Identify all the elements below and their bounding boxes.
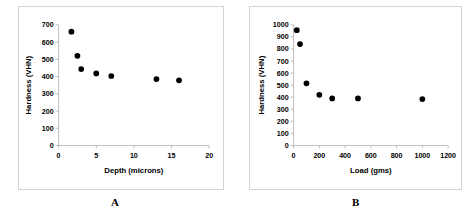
panel-caption-a: A — [111, 196, 119, 208]
y-axis-title: Hardness (VHN) — [257, 55, 266, 114]
y-tick-label: 500 — [42, 56, 54, 64]
x-tick-label: 1200 — [440, 152, 456, 160]
data-point — [304, 80, 310, 86]
panel-caption-b: B — [352, 196, 359, 208]
chart-panel-b: 0100200300400500600700800900100002004006… — [249, 6, 462, 190]
y-axis-title: Hardness (VHN) — [24, 55, 33, 114]
x-tick-label: 0 — [292, 152, 296, 160]
y-tick-label: 100 — [42, 125, 54, 133]
y-tick-label: 600 — [42, 39, 54, 47]
y-tick-label: 400 — [42, 73, 54, 81]
data-point — [316, 92, 322, 98]
y-tick-label: 300 — [42, 90, 54, 98]
y-tick-label: 100 — [277, 130, 289, 138]
data-point — [294, 27, 300, 33]
data-point — [419, 96, 425, 102]
data-point — [355, 96, 361, 102]
y-tick-label: 0 — [285, 142, 289, 150]
scatter-plot-a: 010020030040050060070005101520Depth (mic… — [19, 7, 223, 189]
y-tick-label: 300 — [277, 106, 289, 114]
data-point-group — [69, 29, 182, 83]
x-tick-label: 20 — [205, 152, 213, 160]
x-tick-label: 15 — [168, 152, 176, 160]
chart-panel-a: 010020030040050060070005101520Depth (mic… — [18, 6, 224, 190]
data-point — [176, 77, 182, 83]
data-point — [108, 73, 114, 79]
data-point — [154, 76, 160, 82]
scatter-plot-b: 0100200300400500600700800900100002004006… — [250, 7, 461, 189]
x-tick-label: 1000 — [414, 152, 430, 160]
y-tick-label: 700 — [277, 58, 289, 66]
x-tick-label: 400 — [339, 152, 351, 160]
x-axis-title: Depth (microns) — [104, 166, 164, 175]
figure-container: 010020030040050060070005101520Depth (mic… — [0, 0, 475, 224]
y-tick-label: 200 — [277, 118, 289, 126]
data-point — [69, 29, 75, 35]
x-tick-label: 800 — [391, 152, 403, 160]
data-point — [93, 71, 99, 77]
y-tick-label: 1000 — [273, 21, 289, 29]
x-tick-label: 10 — [130, 152, 138, 160]
data-point — [329, 96, 335, 102]
x-tick-label: 0 — [57, 152, 61, 160]
y-tick-label: 600 — [277, 70, 289, 78]
plot-area-a: 010020030040050060070005101520Depth (mic… — [19, 7, 223, 189]
y-tick-label: 400 — [277, 94, 289, 102]
x-tick-label: 5 — [94, 152, 98, 160]
y-tick-label: 800 — [277, 46, 289, 54]
y-tick-label: 900 — [277, 33, 289, 41]
x-tick-label: 200 — [313, 152, 325, 160]
y-tick-label: 200 — [42, 108, 54, 116]
y-tick-label: 700 — [42, 21, 54, 29]
data-point — [75, 53, 81, 59]
data-point — [78, 66, 84, 72]
plot-area-b: 0100200300400500600700800900100002004006… — [250, 7, 461, 189]
x-axis-title: Load (gms) — [350, 166, 392, 175]
y-tick-label: 0 — [50, 142, 54, 150]
data-point-group — [294, 27, 425, 102]
x-tick-label: 600 — [365, 152, 377, 160]
y-tick-label: 500 — [277, 82, 289, 90]
data-point — [297, 41, 303, 47]
